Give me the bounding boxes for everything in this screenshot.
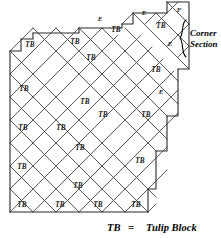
corner-section-line2: Section [190,39,218,49]
tulip-block-label: TB [19,85,29,93]
quilt-layout-diagram: TB TB TB TB TB TB TB TB TB TB TB TB TB T… [0,0,221,238]
tulip-block-label: TB [75,144,85,152]
tulip-block-label: TB [86,54,96,62]
legend-abbreviation: TB [107,222,120,233]
tulip-block-label: TB [18,124,28,132]
tulip-block-label: TB [93,201,103,209]
tulip-block-label: TB [98,111,108,119]
tulip-block-label: TB [17,201,27,209]
legend-meaning: Tulip Block [146,222,197,233]
tulip-block-label: TB [80,98,90,106]
legend-equals-sign: = [128,222,134,233]
edge-triangle-label: E [141,9,147,17]
edge-triangle-label: E [158,88,164,96]
tulip-block-label: TB [131,201,141,209]
tulip-block-label: TB [151,66,161,74]
tulip-block-label: TB [55,201,65,209]
tulip-block-label: TB [141,111,151,119]
edge-triangle-label: E [97,15,103,23]
tulip-block-label: TB [70,38,80,46]
corner-triangle-label: F [177,6,182,14]
tulip-block-label: TB [73,182,83,190]
tulip-block-label: TB [56,124,66,132]
tulip-block-label: TB [135,157,145,165]
edge-triangle-label: E [167,40,173,48]
tulip-block-label: TB [111,26,121,34]
tulip-block-label: TB [156,22,166,30]
tulip-block-label: TB [25,41,35,49]
corner-section-line1: Corner [190,28,217,38]
corner-triangle-labels: F [177,6,182,14]
tulip-block-label: TB [17,163,27,171]
